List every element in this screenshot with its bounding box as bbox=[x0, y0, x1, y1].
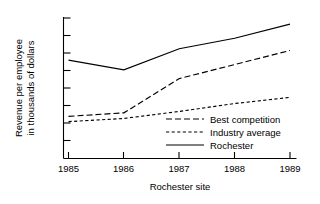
x-tick-label-1985: 1985 bbox=[58, 163, 79, 174]
y-axis-title: Revenue per employee in thousands of dol… bbox=[13, 39, 36, 137]
x-axis-title: Rochester site bbox=[150, 181, 211, 192]
x-tick-label-1988: 1988 bbox=[224, 163, 245, 174]
series-group bbox=[69, 24, 291, 121]
y-axis-title-line2: in thousands of dollars bbox=[25, 40, 36, 135]
series-line-rochester bbox=[69, 24, 291, 70]
legend-label-industry-average: Industry average bbox=[210, 127, 281, 138]
x-tick-labels: 1985 1986 1987 1988 1989 bbox=[58, 163, 301, 174]
x-tick-label-1986: 1986 bbox=[113, 163, 134, 174]
x-tick-label-1989: 1989 bbox=[279, 163, 300, 174]
legend-label-best-competition: Best competition bbox=[210, 114, 280, 125]
x-tick-label-1987: 1987 bbox=[168, 163, 189, 174]
chart-legend: Best competition Industry average Roches… bbox=[166, 114, 281, 151]
x-axis-ticks bbox=[69, 152, 291, 159]
y-axis-title-line1: Revenue per employee bbox=[13, 39, 24, 137]
chart-figure: 1985 1986 1987 1988 1989 Rochester site … bbox=[0, 0, 320, 204]
legend-label-rochester: Rochester bbox=[210, 140, 253, 151]
series-line-best-competition bbox=[69, 50, 291, 116]
line-chart-canvas: 1985 1986 1987 1988 1989 Rochester site … bbox=[0, 0, 320, 204]
